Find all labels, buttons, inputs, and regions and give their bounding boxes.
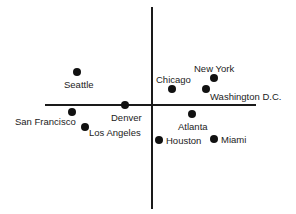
point-san-francisco [68, 108, 76, 116]
point-houston [155, 136, 163, 144]
label-los-angeles: Los Angeles [89, 128, 141, 138]
point-new-york [210, 74, 218, 82]
point-miami [210, 135, 218, 143]
label-houston: Houston [166, 136, 201, 146]
vertical-axis [151, 7, 153, 209]
label-atlanta: Atlanta [178, 122, 208, 132]
point-los-angeles [81, 123, 89, 131]
point-atlanta [188, 110, 196, 118]
label-miami: Miami [221, 135, 246, 145]
point-washington-dc [202, 85, 210, 93]
label-denver: Denver [111, 113, 142, 123]
label-seattle: Seattle [64, 80, 94, 90]
label-san-francisco: San Francisco [15, 117, 76, 127]
city-scatter-diagram: Seattle Denver San Francisco Los Angeles… [0, 0, 296, 214]
point-chicago [168, 85, 176, 93]
label-washington-dc: Washington D.C. [210, 92, 281, 102]
label-chicago: Chicago [156, 75, 191, 85]
point-seattle [73, 68, 81, 76]
point-denver [121, 101, 129, 109]
label-new-york: New York [194, 64, 234, 74]
